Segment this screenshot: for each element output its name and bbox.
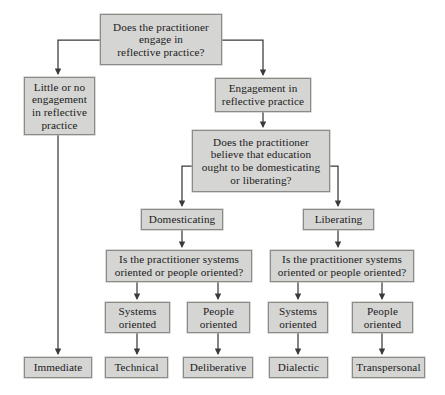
node-deliberative[interactable]: Deliberative	[183, 357, 253, 378]
node-dialectic[interactable]: Dialectic	[269, 357, 328, 378]
node-root-question[interactable]: Does the practitioner engage in reflecti…	[100, 14, 222, 65]
node-little-or-no-engagement[interactable]: Little or no engagement in reflective pr…	[24, 77, 95, 135]
node-engagement-in-reflective-practice[interactable]: Engagement in reflective practice	[215, 78, 311, 112]
node-people-oriented-right[interactable]: People oriented	[352, 302, 413, 333]
node-belief-question[interactable]: Does the practitioner believe that educa…	[192, 130, 330, 192]
node-orientation-question-right[interactable]: Is the practitioner systems oriented or …	[270, 250, 414, 282]
node-immediate[interactable]: Immediate	[24, 357, 92, 378]
edge-root-to-little	[58, 40, 100, 74]
flowchart-connectors	[0, 0, 445, 395]
node-systems-oriented-left[interactable]: Systems oriented	[105, 302, 170, 333]
edge-believe-to-liberating	[330, 166, 338, 206]
node-domesticating[interactable]: Domesticating	[141, 209, 223, 230]
node-people-oriented-left[interactable]: People oriented	[187, 302, 250, 333]
edge-root-to-engagement	[222, 40, 263, 75]
edge-believe-to-domesticating	[182, 166, 192, 206]
node-orientation-question-left[interactable]: Is the practitioner systems oriented or …	[106, 250, 252, 282]
flowchart-canvas: Does the practitioner engage in reflecti…	[0, 0, 445, 395]
node-systems-oriented-right[interactable]: Systems oriented	[268, 302, 328, 333]
node-technical[interactable]: Technical	[105, 357, 168, 378]
node-transpersonal[interactable]: Transpersonal	[352, 357, 425, 378]
node-liberating[interactable]: Liberating	[303, 209, 374, 230]
